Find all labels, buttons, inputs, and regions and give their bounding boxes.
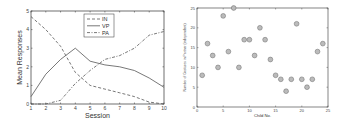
x-tick-label: 0 [196,108,199,113]
scatter-point [210,53,215,58]
scatter-point [278,77,283,82]
scatter-point [221,14,226,19]
x-tick-label: 5 [222,108,225,113]
scatter-point [247,37,252,42]
scatter-point [252,53,257,58]
y-tick-label: 10 [191,65,196,70]
y-tick-label: 3 [26,45,29,51]
x-tick-label: 2 [44,105,47,111]
y-tick-label: 15 [191,45,196,50]
scatter-point [305,85,310,90]
legend-entry-in: IN [102,16,108,22]
scatter-point [263,37,268,42]
scatter-point [216,65,221,70]
x-tick-label: 10 [247,108,252,113]
scatter-point [310,77,315,82]
scatter-point [268,57,273,62]
y-tick-label: 0 [26,101,29,107]
y-axis-label: Number of Gestures in Partner (independe… [183,23,187,91]
y-tick-label: 5 [26,8,29,14]
scatter-point [200,73,205,78]
x-axis-label: Child No. [254,113,271,118]
scatter-point [294,21,299,26]
legend: INVPPA [84,14,114,37]
x-axis-label: Session [85,112,110,119]
x-tick-label: 15 [273,108,278,113]
x-tick-label: 6 [103,105,106,111]
scatter-point [320,41,325,46]
legend-entry-pa: PA [102,30,109,36]
y-tick-label: 4 [26,26,29,32]
line-chart-canvas: 12345678910012345SessionMean ResponsesIN… [0,0,172,123]
y-tick-label: 20 [191,25,196,30]
scatter-chart-gestures: 05101520250510152025Child No.Number of G… [172,0,343,123]
x-tick-label: 25 [326,108,331,113]
scatter-point [299,77,304,82]
scatter-point [284,89,289,94]
x-tick-label: 8 [133,105,136,111]
x-tick-label: 5 [89,105,92,111]
scatter-point [289,77,294,82]
scatter-point [231,6,236,11]
series-line-vp [31,48,164,96]
scatter-point [242,37,247,42]
x-tick-label: 4 [74,105,77,111]
y-tick-label: 1 [26,82,29,88]
scatter-chart-canvas: 05101520250510152025Child No.Number of G… [172,0,343,123]
scatter-point [258,25,263,30]
y-axis-label: Mean Responses [16,30,24,85]
y-tick-label: 5 [193,85,196,90]
line-chart-mean-responses: 12345678910012345SessionMean ResponsesIN… [0,0,172,123]
scatter-point [226,49,231,54]
scatter-point [315,49,320,54]
x-tick-label: 1 [30,105,33,111]
y-tick-label: 2 [26,64,29,70]
x-tick-label: 7 [118,105,121,111]
x-tick-label: 20 [300,108,305,113]
scatter-point [237,65,242,70]
legend-entry-vp: VP [102,23,110,29]
plot-frame [197,8,328,107]
y-tick-label: 25 [191,6,196,11]
x-tick-label: 9 [148,105,151,111]
x-tick-label: 3 [59,105,62,111]
x-tick-label: 10 [161,105,167,111]
scatter-point [205,41,210,46]
series-line-pa [31,32,164,105]
scatter-point [273,73,278,78]
